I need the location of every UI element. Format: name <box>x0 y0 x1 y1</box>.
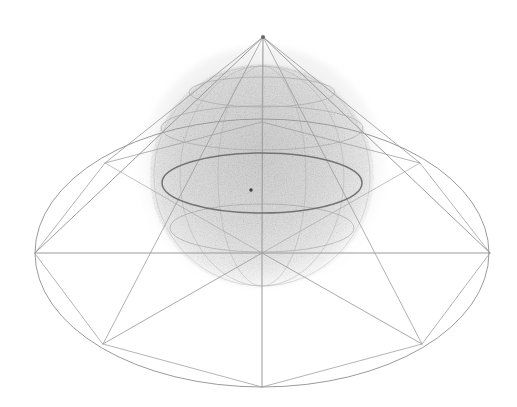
sphere-center-dot <box>249 188 252 191</box>
figure-canvas: Cone and inscribed sphere geometric cons… <box>0 0 517 407</box>
cone-apex-dot <box>261 35 265 39</box>
geometry-diagram <box>0 0 517 407</box>
